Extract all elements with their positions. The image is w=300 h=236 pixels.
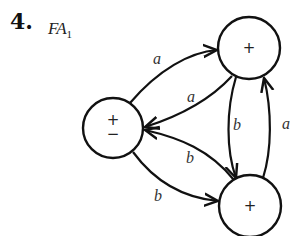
- edge-bottom-to-top-a: [263, 78, 270, 178]
- state-top-final: +: [218, 17, 280, 79]
- edge-left-to-bottom-b: [133, 152, 218, 201]
- state-bottom-plus: +: [244, 197, 257, 215]
- label-bottom-to-top: a: [282, 115, 290, 132]
- label-left-to-bottom: b: [154, 187, 162, 204]
- textbook-page: 4. FA1 a a b a b b + − +: [0, 0, 300, 236]
- state-top-plus: +: [243, 39, 256, 57]
- automaton-diagram: a a b a b b + − + +: [0, 0, 300, 236]
- state-bottom-final: +: [219, 175, 281, 236]
- label-top-to-left: a: [187, 88, 195, 105]
- state-left-start: + −: [83, 98, 143, 158]
- label-top-to-bottom: b: [233, 116, 241, 133]
- edge-left-to-top-a: [130, 50, 217, 103]
- label-left-to-top: a: [153, 50, 161, 67]
- label-bottom-to-left: b: [186, 149, 194, 166]
- state-left-minus: −: [107, 125, 120, 143]
